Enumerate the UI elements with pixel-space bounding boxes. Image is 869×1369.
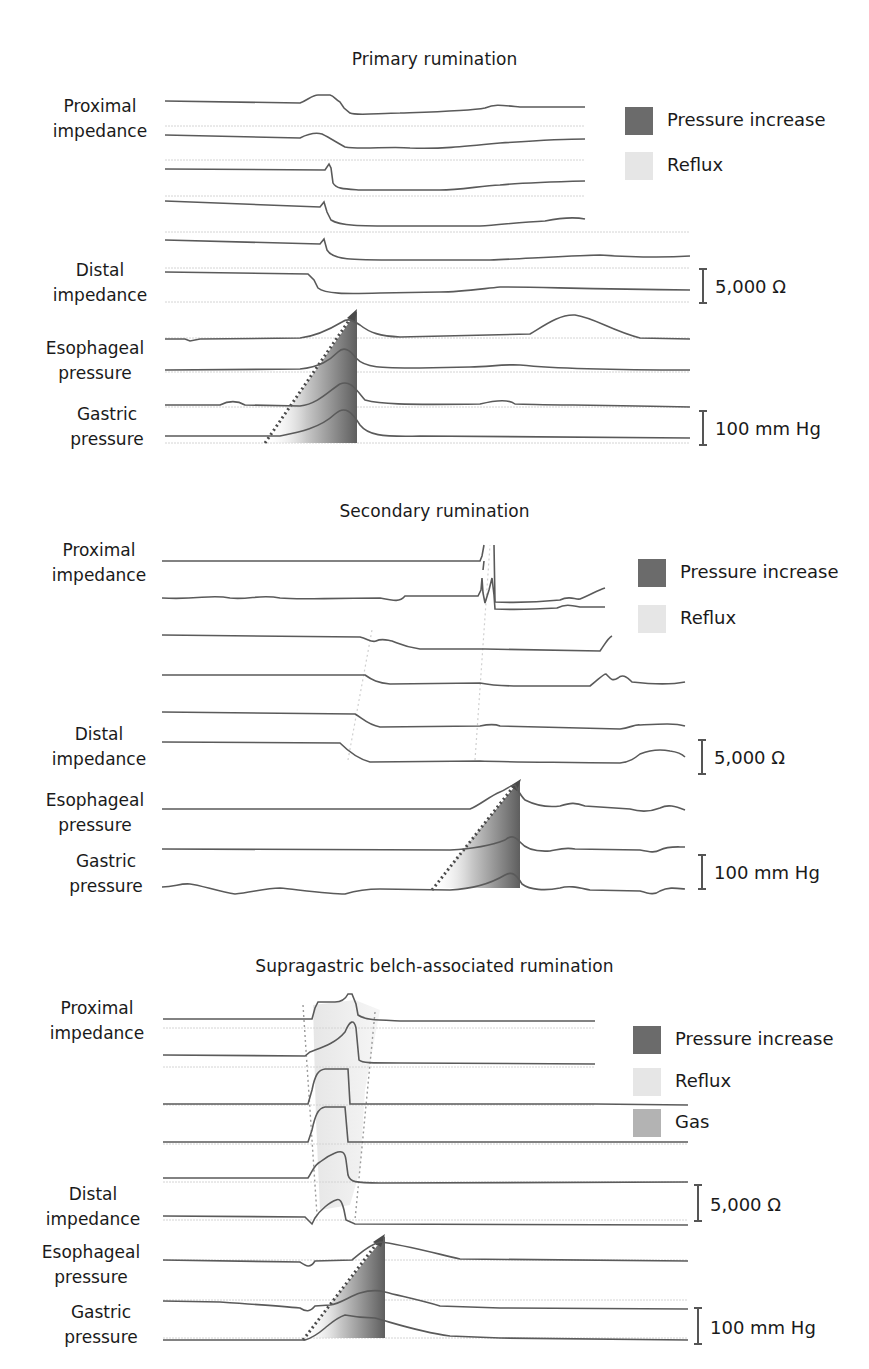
- scale-bar-icon: [699, 268, 707, 304]
- manometry-traces: [0, 0, 869, 460]
- reflux-swatch-icon: [638, 605, 666, 633]
- baselines: [165, 126, 690, 443]
- manometry-traces: [0, 460, 869, 920]
- impedance-traces: [165, 95, 690, 293]
- scale-label: 5,000 Ω: [714, 747, 785, 768]
- reflux-guides: [348, 545, 490, 760]
- pressure-increase-swatch-icon: [638, 559, 666, 587]
- scale-bar-icon: [698, 854, 706, 890]
- scale-label: 5,000 Ω: [715, 276, 786, 297]
- scale-label: 5,000 Ω: [710, 1194, 781, 1215]
- gas-swatch-icon: [633, 1109, 661, 1137]
- legend-label: Reflux: [675, 1070, 731, 1091]
- pressure-traces: [165, 315, 690, 438]
- legend-label: Gas: [675, 1111, 709, 1132]
- legend-label: Reflux: [680, 607, 736, 628]
- legend-label: Reflux: [667, 154, 723, 175]
- legend-label: Pressure increase: [680, 561, 838, 582]
- legend-label: Pressure increase: [667, 109, 825, 130]
- pressure-increase-swatch-icon: [625, 107, 653, 135]
- panel-primary-rumination: Primary rumination Proximal impedance Di…: [0, 0, 869, 460]
- scale-label: 100 mm Hg: [710, 1317, 816, 1338]
- panel-secondary-rumination: Secondary rumination Proximal impedance …: [0, 460, 869, 920]
- impedance-traces: [162, 545, 685, 763]
- scale-label: 100 mm Hg: [714, 862, 820, 883]
- pressure-increase-swatch-icon: [633, 1026, 661, 1054]
- legend-label: Pressure increase: [675, 1028, 833, 1049]
- reflux-swatch-icon: [633, 1068, 661, 1096]
- scale-bar-icon: [694, 1184, 702, 1222]
- pressure-traces: [162, 785, 685, 894]
- impedance-traces: [163, 994, 688, 1225]
- scale-bar-icon: [699, 410, 707, 446]
- scale-label: 100 mm Hg: [715, 418, 821, 439]
- scale-bar-icon: [698, 739, 706, 775]
- panel-supragastric-rumination: Supragastric belch-associated rumination…: [0, 920, 869, 1369]
- scale-bar-icon: [694, 1307, 702, 1345]
- reflux-swatch-icon: [625, 152, 653, 180]
- pressure-traces: [163, 1242, 688, 1340]
- manometry-traces: [0, 920, 869, 1369]
